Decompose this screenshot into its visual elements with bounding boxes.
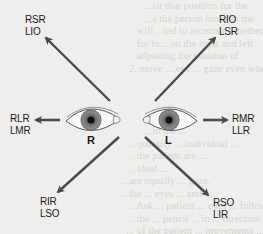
label-up-left: RSR LIO bbox=[25, 14, 46, 38]
right-eye-icon bbox=[66, 107, 120, 130]
label-left-line1: RLR bbox=[10, 113, 31, 125]
label-left: RLR LMR bbox=[10, 113, 31, 137]
label-up-right-line2: LSR bbox=[219, 26, 238, 38]
label-up-right-line1: RIO bbox=[219, 14, 238, 26]
label-up-right: RIO LSR bbox=[219, 14, 238, 38]
label-up-left-line1: RSR bbox=[25, 14, 46, 26]
label-right: RMR LLR bbox=[232, 113, 254, 137]
label-down-left-line1: RIR bbox=[40, 196, 59, 208]
arrow-up-right bbox=[155, 38, 215, 101]
label-up-left-line2: LIO bbox=[25, 26, 46, 38]
left-eye-icon bbox=[143, 107, 197, 130]
left-eye-label: L bbox=[165, 134, 172, 146]
label-left-line2: LMR bbox=[10, 125, 31, 137]
label-down-right: RSO LIR bbox=[213, 197, 234, 221]
right-eye-label: R bbox=[87, 134, 95, 146]
label-down-right-line2: LIR bbox=[213, 209, 234, 221]
label-down-left: RIR LSO bbox=[40, 196, 59, 220]
arrow-down-right bbox=[145, 137, 208, 195]
label-right-line2: LLR bbox=[232, 125, 254, 137]
label-down-left-line2: LSO bbox=[40, 208, 59, 220]
label-right-line1: RMR bbox=[232, 113, 254, 125]
arrow-up-left bbox=[46, 38, 110, 101]
label-down-right-line1: RSO bbox=[213, 197, 234, 209]
